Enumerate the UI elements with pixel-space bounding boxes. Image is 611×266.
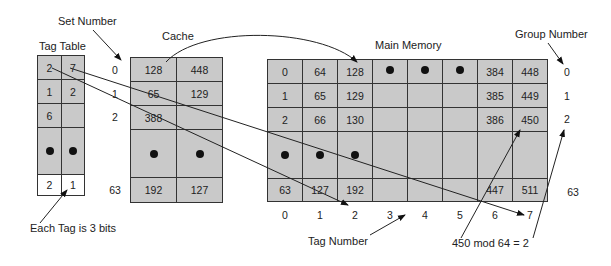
tag-number: 0 <box>278 209 292 221</box>
memory-cell <box>373 179 408 201</box>
memory-cell: 128 <box>338 60 373 84</box>
ellipsis-cell <box>177 130 222 178</box>
memory-cell: 1 <box>268 84 303 108</box>
memory-cell: 127 <box>303 179 338 201</box>
group-number: 1 <box>560 90 574 102</box>
ellipsis-dot-icon <box>386 66 394 74</box>
memory-cell: 129 <box>338 84 373 108</box>
ellipsis-cell <box>338 132 373 179</box>
ellipsis-cell <box>131 130 177 178</box>
memory-cell <box>478 132 513 179</box>
ellipsis-cell <box>443 60 478 84</box>
tag-number: 1 <box>313 209 327 221</box>
tag-cell: 2 <box>38 56 62 80</box>
tag-size-note: Each Tag is 3 bits <box>30 222 116 234</box>
ellipsis-dot-icon <box>46 147 54 155</box>
ellipsis-dot-icon <box>196 150 204 158</box>
memory-cell <box>443 179 478 201</box>
ellipsis-cell <box>268 132 303 179</box>
memory-cell: 0 <box>268 60 303 84</box>
memory-cell: 385 <box>478 84 513 108</box>
memory-cell <box>408 179 443 201</box>
group-number-label: Group Number <box>515 28 588 40</box>
memory-cell: 511 <box>513 179 547 201</box>
memory-cell <box>443 132 478 179</box>
cache-grid: 128 448 65 129 388 192 127 <box>130 57 223 203</box>
cache-cell: 388 <box>131 106 177 130</box>
main-memory-title: Main Memory <box>375 39 442 51</box>
memory-cell <box>443 108 478 132</box>
tag-cell: 2 <box>62 80 84 104</box>
memory-cell <box>373 108 408 132</box>
ellipsis-dot-icon <box>316 151 324 159</box>
memory-cell: 130 <box>338 108 373 132</box>
group-number: 2 <box>560 113 574 125</box>
memory-cell <box>373 132 408 179</box>
group-number: 63 <box>562 186 584 198</box>
cache-title: Cache <box>162 30 194 42</box>
cache-cell: 128 <box>131 58 177 82</box>
memory-cell <box>443 84 478 108</box>
memory-cell: 66 <box>303 108 338 132</box>
memory-cell: 64 <box>303 60 338 84</box>
tag-cell: 1 <box>38 80 62 104</box>
group-number: 0 <box>560 66 574 78</box>
memory-cell <box>408 84 443 108</box>
tag-number: 2 <box>348 209 362 221</box>
memory-cell: 447 <box>478 179 513 201</box>
memory-cell: 449 <box>513 84 547 108</box>
tag-number: 3 <box>383 209 397 221</box>
set-number: 63 <box>104 184 126 196</box>
set-number: 1 <box>108 88 122 100</box>
memory-cell: 63 <box>268 179 303 201</box>
cache-cell: 65 <box>131 82 177 106</box>
tag-number-label: Tag Number <box>308 235 368 247</box>
ellipsis-cell <box>62 128 84 175</box>
cache-cell <box>177 106 222 130</box>
ellipsis-dot-icon <box>421 66 429 74</box>
mod-calculation-note: 450 mod 64 = 2 <box>452 237 529 249</box>
tag-cell: 1 <box>62 175 84 195</box>
ellipsis-cell <box>303 132 338 179</box>
tag-cell <box>62 104 84 128</box>
cache-cell: 129 <box>177 82 222 106</box>
memory-cell: 65 <box>303 84 338 108</box>
tag-number: 5 <box>453 209 467 221</box>
memory-cell: 384 <box>478 60 513 84</box>
cache-cell: 127 <box>177 178 222 202</box>
ellipsis-dot-icon <box>69 147 77 155</box>
set-number-label: Set Number <box>58 15 117 27</box>
ellipsis-dot-icon <box>351 151 359 159</box>
tag-number: 6 <box>488 209 502 221</box>
memory-cell <box>408 108 443 132</box>
tag-number: 4 <box>418 209 432 221</box>
ellipsis-cell <box>373 60 408 84</box>
memory-cell: 192 <box>338 179 373 201</box>
tag-table: 2 7 1 2 6 2 1 <box>37 55 85 196</box>
memory-cell: 2 <box>268 108 303 132</box>
memory-cell: 450 <box>513 108 547 132</box>
memory-cell <box>373 84 408 108</box>
memory-cell <box>408 132 443 179</box>
tag-cell: 6 <box>38 104 62 128</box>
memory-cell <box>513 132 547 179</box>
memory-cell: 386 <box>478 108 513 132</box>
set-number: 2 <box>108 111 122 123</box>
tag-cell: 7 <box>62 56 84 80</box>
ellipsis-dot-icon <box>281 151 289 159</box>
ellipsis-dot-icon <box>456 66 464 74</box>
cache-cell: 448 <box>177 58 222 82</box>
cache-cell: 192 <box>131 178 177 202</box>
main-memory-grid: 0641283844481651293854492661303864506312… <box>267 59 548 202</box>
ellipsis-dot-icon <box>150 150 158 158</box>
tag-table-title: Tag Table <box>39 40 86 52</box>
ellipsis-cell <box>408 60 443 84</box>
tag-cell: 2 <box>38 175 62 195</box>
memory-cell: 448 <box>513 60 547 84</box>
set-number: 0 <box>108 64 122 76</box>
ellipsis-cell <box>38 128 62 175</box>
tag-number: 7 <box>523 209 537 221</box>
